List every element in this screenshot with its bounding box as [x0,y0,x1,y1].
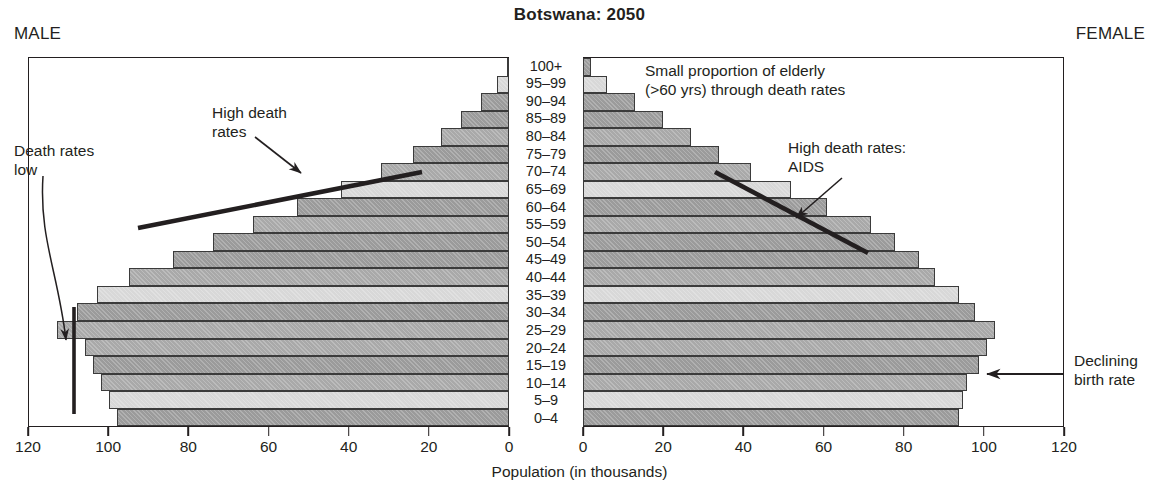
annotation-high-death-rates: High death rates [212,104,287,142]
bar-female-35–39 [583,286,959,304]
bar-female-75–79 [583,146,719,164]
x-tick [903,427,905,436]
x-tick [983,427,985,436]
x-tick-label: 0 [579,438,588,456]
bar-male-0–4 [117,409,509,427]
bar-row [583,374,1063,392]
x-tick-label: 40 [735,438,752,456]
female-plot-panel [583,57,1064,427]
bar-male-30–34 [77,303,509,321]
x-axis-title: Population (in thousands) [0,463,1159,481]
bar-row [29,303,509,321]
age-label: 55–59 [509,216,583,234]
bar-male-25–29 [57,321,509,339]
x-tick [662,427,664,436]
x-tick [268,427,270,436]
bar-male-80–84 [441,128,509,146]
bar-female-15–19 [583,356,979,374]
bar-row [29,58,509,76]
age-label: 15–19 [509,357,583,375]
x-tick-label: 0 [505,438,514,456]
bar-female-60–64 [583,198,827,216]
bar-female-55–59 [583,216,871,234]
bar-row [29,356,509,374]
bar-row [583,286,1063,304]
bar-male-85–89 [461,111,509,129]
bar-female-65–69 [583,181,791,199]
bar-female-80–84 [583,128,691,146]
annotation-declining-birth: Declining birth rate [1074,352,1138,390]
x-tick [1063,427,1065,436]
bar-male-5–9 [109,391,509,409]
age-label: 85–89 [509,110,583,128]
bar-female-90–94 [583,93,635,111]
age-label: 20–24 [509,339,583,357]
x-tick-label: 60 [260,438,277,456]
x-tick-label: 100 [95,438,121,456]
bar-row [29,268,509,286]
bar-row [583,321,1063,339]
bar-male-75–79 [413,146,509,164]
age-label: 35–39 [509,286,583,304]
x-tick [582,427,584,436]
x-tick [107,427,109,436]
age-label: 80–84 [509,128,583,146]
bar-female-45–49 [583,251,919,269]
male-x-axis: 020406080100120 [28,427,509,465]
age-label: 5–9 [509,392,583,410]
bar-row [29,198,509,216]
x-tick-label: 120 [1051,438,1077,456]
x-tick [508,427,510,436]
bar-row [583,198,1063,216]
bar-female-40–44 [583,268,935,286]
x-tick-label: 120 [15,438,41,456]
bar-female-95–99 [583,76,607,94]
bar-row [29,321,509,339]
bar-row [29,76,509,94]
bar-row [583,233,1063,251]
bar-male-50–54 [213,233,509,251]
bar-row [29,391,509,409]
bar-row [583,216,1063,234]
bar-female-100+ [583,58,591,76]
bar-row [583,303,1063,321]
bar-male-65–69 [341,181,509,199]
annotation-high-death-aids: High death rates: AIDS [788,139,906,177]
x-tick-label: 60 [815,438,832,456]
x-tick [743,427,745,436]
bar-female-20–24 [583,339,987,357]
age-label: 10–14 [509,374,583,392]
female-bar-group [583,58,1063,426]
age-group-axis: 100+95–9990–9485–8980–8475–7970–7465–696… [509,57,583,427]
x-tick-label: 20 [420,438,437,456]
bar-row [29,286,509,304]
bar-male-95–99 [497,76,509,94]
x-tick [348,427,350,436]
page-title: Botswana: 2050 [0,5,1159,25]
bar-male-20–24 [85,339,509,357]
x-tick [823,427,825,436]
bar-female-30–34 [583,303,975,321]
bar-male-70–74 [381,163,509,181]
age-label: 60–64 [509,198,583,216]
bar-row [29,163,509,181]
age-label: 30–34 [509,304,583,322]
bar-male-45–49 [173,251,509,269]
bar-female-85–89 [583,111,663,129]
bar-female-70–74 [583,163,751,181]
bar-row [583,251,1063,269]
x-tick-label: 20 [655,438,672,456]
bar-male-40–44 [129,268,509,286]
x-tick-label: 40 [340,438,357,456]
annotation-death-rates-low: Death rates low [14,142,94,180]
population-pyramid-figure: Botswana: 2050 MALE FEMALE 100+95–9990–9… [0,0,1159,495]
bar-female-25–29 [583,321,995,339]
bar-row [29,409,509,427]
age-label: 70–74 [509,163,583,181]
bar-row [29,216,509,234]
age-label: 50–54 [509,233,583,251]
bar-row [29,233,509,251]
x-tick-label: 80 [895,438,912,456]
age-label: 95–99 [509,75,583,93]
bar-row [29,181,509,199]
